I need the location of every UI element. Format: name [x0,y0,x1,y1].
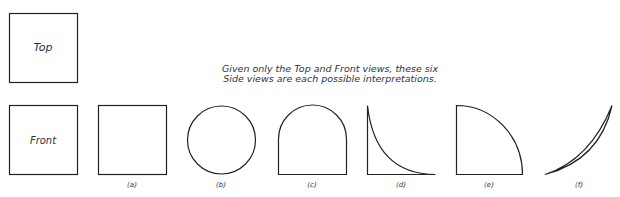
label-d: (d) [396,181,406,189]
top-label: Top [33,41,52,54]
label-c: (c) [307,181,317,189]
label-b: (b) [216,181,226,189]
caption-line-2: Side views are each possible interpretat… [223,73,436,84]
label-a: (a) [127,181,137,189]
label-f: (f) [575,181,583,189]
side-view-b [188,106,256,174]
side-view-e [457,106,523,175]
side-view-d [368,106,436,175]
side-view-c [279,105,347,175]
label-e: (e) [484,181,494,189]
front-label: Front [30,135,57,146]
side-view-f [545,106,612,175]
orthographic-diagram: Top Front Given only the Top and Front v… [0,0,620,197]
side-view-a [99,106,167,175]
